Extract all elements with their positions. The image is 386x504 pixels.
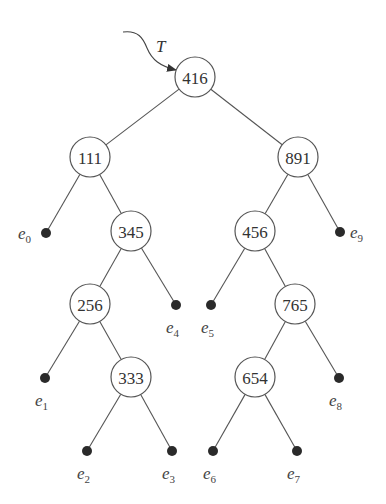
node-key: 333: [118, 369, 144, 388]
leaf-e9: e9: [335, 223, 364, 244]
root-pointer: T: [123, 32, 176, 70]
edge-n765-n654: [265, 322, 286, 360]
tree-node-111: 111: [70, 137, 110, 177]
leaf-dot-icon: [334, 373, 344, 383]
leaf-dot-icon: [335, 227, 345, 237]
pointer-label: T: [156, 37, 167, 56]
tree-node-416: 416: [175, 57, 215, 97]
leaf-label: e7: [287, 464, 301, 485]
edge-n333-e2: [87, 394, 121, 451]
leaf-e6: e6: [203, 446, 218, 485]
edge-n891-n456: [265, 174, 288, 213]
edge-n111-e0: [46, 174, 80, 233]
leaf-dot-icon: [206, 300, 216, 310]
node-key: 111: [78, 149, 102, 168]
node-key: 891: [285, 149, 311, 168]
edge-n333-e3: [141, 394, 172, 451]
leaf-dot-icon: [82, 446, 92, 456]
edge-n891-e9: [308, 174, 340, 232]
external-leaves: e0e1e2e3e4e5e6e7e8e9: [18, 223, 364, 485]
tree-node-345: 345: [111, 211, 151, 251]
node-key: 345: [118, 223, 144, 242]
edge-n765-e8: [305, 321, 339, 378]
edge-n654-e6: [213, 394, 245, 451]
tree-node-256: 256: [70, 284, 110, 324]
leaf-label: e1: [35, 391, 48, 412]
leaf-label: e2: [77, 464, 90, 485]
edge-n456-e5: [211, 248, 245, 305]
tree-node-333: 333: [111, 357, 151, 397]
leaf-e0: e0: [18, 224, 51, 245]
node-key: 416: [182, 69, 208, 88]
leaf-e5: e5: [201, 300, 216, 339]
bst-diagram: T e0e1e2e3e4e5e6e7e8e9 41611189134545625…: [0, 0, 386, 504]
leaf-dot-icon: [208, 446, 218, 456]
tree-nodes: 416111891345456256765333654: [70, 57, 318, 397]
tree-node-456: 456: [235, 211, 275, 251]
leaf-dot-icon: [167, 446, 177, 456]
leaf-label: e6: [203, 464, 217, 485]
node-key: 256: [77, 296, 103, 315]
node-key: 456: [242, 223, 268, 242]
leaf-label: e5: [201, 318, 215, 339]
leaf-label: e9: [350, 223, 364, 244]
leaf-e1: e1: [35, 373, 50, 412]
edge-n345-e4: [141, 248, 176, 305]
edge-n416-n891: [211, 89, 282, 144]
leaf-label: e0: [18, 224, 32, 245]
leaf-label: e4: [166, 318, 180, 339]
edge-n111-n345: [100, 174, 122, 213]
edge-n256-e1: [45, 321, 80, 378]
leaf-e3: e3: [162, 446, 177, 485]
leaf-e8: e8: [329, 373, 344, 412]
leaf-dot-icon: [292, 446, 302, 456]
pointer-arrow-icon: [123, 32, 176, 70]
tree-node-765: 765: [275, 284, 315, 324]
edge-n345-n256: [100, 248, 121, 286]
edge-n654-e7: [265, 394, 297, 451]
node-key: 654: [242, 369, 268, 388]
leaf-dot-icon: [40, 373, 50, 383]
leaf-dot-icon: [41, 228, 51, 238]
leaf-dot-icon: [171, 300, 181, 310]
leaf-e7: e7: [287, 446, 302, 485]
node-key: 765: [282, 296, 308, 315]
leaf-label: e8: [329, 391, 343, 412]
leaf-e4: e4: [166, 300, 181, 339]
edge-n256-n333: [100, 321, 121, 359]
tree-node-654: 654: [235, 357, 275, 397]
leaf-e2: e2: [77, 446, 92, 485]
edge-n416-n111: [106, 89, 179, 145]
tree-node-891: 891: [278, 137, 318, 177]
edge-n456-n765: [265, 249, 286, 287]
leaf-label: e3: [162, 464, 176, 485]
